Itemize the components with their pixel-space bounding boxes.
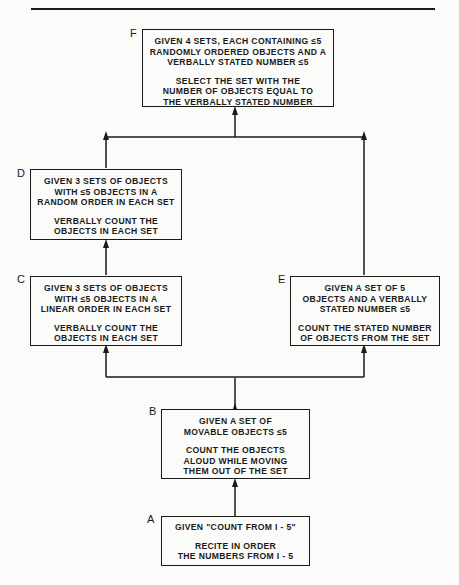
text-line: ALOUD WHILE MOVING bbox=[166, 456, 305, 467]
node-b: GIVEN A SET OF MOVABLE OBJECTS ≤5 COUNT … bbox=[161, 409, 310, 479]
text-line: RECITE IN ORDER bbox=[166, 541, 305, 552]
text-line: VERBALLY COUNT THE bbox=[35, 323, 177, 334]
text-line: WITH ≤5 OBJECTS IN A bbox=[35, 187, 177, 198]
text-line: LINEAR ORDER IN EACH SET bbox=[35, 304, 177, 315]
arrowhead-icon bbox=[361, 131, 367, 140]
node-c: GIVEN 3 SETS OF OBJECTS WITH ≤5 OBJECTS … bbox=[30, 276, 182, 346]
text-line: THEM OUT OF THE SET bbox=[166, 466, 305, 477]
text-line: MOVABLE OBJECTS ≤5 bbox=[166, 427, 305, 438]
text-line: SELECT THE SET WITH THE bbox=[147, 76, 329, 87]
node-a: GIVEN "COUNT FROM I - 5" RECITE IN ORDER… bbox=[161, 516, 310, 566]
node-b-task: COUNT THE OBJECTS ALOUD WHILE MOVING THE… bbox=[162, 443, 309, 481]
text-line: RANDOMLY ORDERED OBJECTS AND A bbox=[147, 47, 329, 58]
text-line: VERBALLY STATED NUMBER ≤5 bbox=[147, 57, 329, 68]
node-a-given: GIVEN "COUNT FROM I - 5" bbox=[162, 517, 309, 535]
text-line: GIVEN 3 SETS OF OBJECTS bbox=[35, 283, 177, 294]
node-c-task: VERBALLY COUNT THE OBJECTS IN EACH SET bbox=[31, 321, 181, 348]
text-line: GIVEN A SET OF 5 bbox=[295, 283, 435, 294]
text-line: VERBALLY COUNT THE bbox=[35, 216, 177, 227]
text-line: GIVEN 4 SETS, EACH CONTAINING ≤5 bbox=[147, 36, 329, 47]
node-a-letter: A bbox=[147, 513, 154, 525]
text-line: OBJECTS IN EACH SET bbox=[35, 333, 177, 344]
text-line: OBJECTS IN EACH SET bbox=[35, 226, 177, 237]
node-b-letter: B bbox=[149, 405, 156, 417]
node-c-given: GIVEN 3 SETS OF OBJECTS WITH ≤5 OBJECTS … bbox=[31, 277, 181, 317]
text-line: COUNT THE STATED NUMBER bbox=[295, 323, 435, 334]
arrowhead-icon bbox=[103, 131, 109, 140]
text-line: THE NUMBERS FROM I - 5 bbox=[166, 551, 305, 562]
node-f-given: GIVEN 4 SETS, EACH CONTAINING ≤5 RANDOML… bbox=[143, 30, 333, 70]
text-line: RANDOM ORDER IN EACH SET bbox=[35, 197, 177, 208]
node-f-task: SELECT THE SET WITH THE NUMBER OF OBJECT… bbox=[143, 74, 333, 112]
text-line: THE VERBALLY STATED NUMBER bbox=[147, 97, 329, 108]
text-line: NUMBER OF OBJECTS EQUAL TO bbox=[147, 86, 329, 97]
text-line: COUNT THE OBJECTS bbox=[166, 445, 305, 456]
node-e-task: COUNT THE STATED NUMBER OF OBJECTS FROM … bbox=[291, 321, 439, 348]
text-line: OF OBJECTS FROM THE SET bbox=[295, 333, 435, 344]
text-line: OBJECTS AND A VERBALLY bbox=[295, 294, 435, 305]
node-d-task: VERBALLY COUNT THE OBJECTS IN EACH SET bbox=[31, 214, 181, 241]
text-line: WITH ≤5 OBJECTS IN A bbox=[35, 294, 177, 305]
node-e: GIVEN A SET OF 5 OBJECTS AND A VERBALLY … bbox=[290, 276, 440, 346]
node-d: GIVEN 3 SETS OF OBJECTS WITH ≤5 OBJECTS … bbox=[30, 169, 182, 240]
text-line: GIVEN "COUNT FROM I - 5" bbox=[166, 522, 305, 533]
node-e-given: GIVEN A SET OF 5 OBJECTS AND A VERBALLY … bbox=[291, 277, 439, 317]
text-line: GIVEN A SET OF bbox=[166, 416, 305, 427]
node-e-letter: E bbox=[278, 273, 285, 285]
text-line: STATED NUMBER ≤5 bbox=[295, 304, 435, 315]
node-f: GIVEN 4 SETS, EACH CONTAINING ≤5 RANDOML… bbox=[142, 29, 334, 107]
text-line: GIVEN 3 SETS OF OBJECTS bbox=[35, 176, 177, 187]
node-f-letter: F bbox=[130, 27, 137, 39]
node-d-letter: D bbox=[17, 167, 25, 179]
node-b-given: GIVEN A SET OF MOVABLE OBJECTS ≤5 bbox=[162, 410, 309, 439]
node-d-given: GIVEN 3 SETS OF OBJECTS WITH ≤5 OBJECTS … bbox=[31, 170, 181, 210]
node-a-task: RECITE IN ORDER THE NUMBERS FROM I - 5 bbox=[162, 539, 309, 566]
node-c-letter: C bbox=[17, 273, 25, 285]
